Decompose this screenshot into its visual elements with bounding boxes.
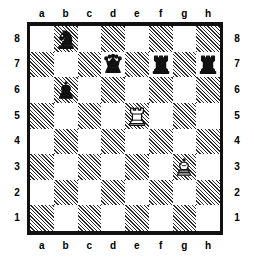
rank-label-7-left: 7 <box>11 58 23 70</box>
square-b7[interactable] <box>54 52 78 78</box>
square-a6[interactable] <box>30 77 54 103</box>
square-a1[interactable] <box>30 205 54 231</box>
square-g8[interactable] <box>173 26 197 52</box>
rank-label-6-left: 6 <box>11 84 23 96</box>
square-g4[interactable] <box>173 129 197 155</box>
square-b3[interactable] <box>54 154 78 180</box>
chess-diagram: abcdefgh abcdefgh 87654321 87654321 <box>0 0 254 268</box>
square-f1[interactable] <box>149 205 173 231</box>
square-b1[interactable] <box>54 205 78 231</box>
square-d6[interactable] <box>101 77 125 103</box>
chess-board-frame <box>27 24 223 233</box>
rank-label-2-left: 2 <box>11 187 23 199</box>
square-d2[interactable] <box>101 180 125 206</box>
square-d3[interactable] <box>101 154 125 180</box>
square-c4[interactable] <box>78 129 102 155</box>
file-label-g-top: g <box>177 8 191 20</box>
square-e4[interactable] <box>125 129 149 155</box>
square-d4[interactable] <box>101 129 125 155</box>
square-b4[interactable] <box>54 129 78 155</box>
rank-label-1-right: 1 <box>231 212 243 224</box>
square-b5[interactable] <box>54 103 78 129</box>
board-frame-bottom <box>27 233 223 235</box>
file-label-b-bottom: b <box>59 240 73 252</box>
square-h8[interactable] <box>196 26 220 52</box>
square-f2[interactable] <box>149 180 173 206</box>
square-b6[interactable] <box>54 77 78 103</box>
file-label-c-top: c <box>82 8 96 20</box>
square-c1[interactable] <box>78 205 102 231</box>
file-label-c-bottom: c <box>82 240 96 252</box>
square-c2[interactable] <box>78 180 102 206</box>
square-c7[interactable] <box>78 52 102 78</box>
square-d7[interactable] <box>101 52 125 78</box>
square-a7[interactable] <box>30 52 54 78</box>
rank-label-7-right: 7 <box>231 58 243 70</box>
square-f6[interactable] <box>149 77 173 103</box>
square-a5[interactable] <box>30 103 54 129</box>
square-g5[interactable] <box>173 103 197 129</box>
square-b2[interactable] <box>54 180 78 206</box>
square-f8[interactable] <box>149 26 173 52</box>
square-h5[interactable] <box>196 103 220 129</box>
white-king-on-g3[interactable] <box>173 156 195 178</box>
square-f4[interactable] <box>149 129 173 155</box>
square-f3[interactable] <box>149 154 173 180</box>
file-label-d-bottom: d <box>106 240 120 252</box>
square-d1[interactable] <box>101 205 125 231</box>
square-e1[interactable] <box>125 205 149 231</box>
file-label-a-top: a <box>35 8 49 20</box>
square-h4[interactable] <box>196 129 220 155</box>
rank-label-8-left: 8 <box>11 33 23 45</box>
file-label-f-top: f <box>154 8 168 20</box>
square-e2[interactable] <box>125 180 149 206</box>
square-a3[interactable] <box>30 154 54 180</box>
square-e7[interactable] <box>125 52 149 78</box>
square-g2[interactable] <box>173 180 197 206</box>
rank-label-2-right: 2 <box>231 187 243 199</box>
square-g7[interactable] <box>173 52 197 78</box>
square-g1[interactable] <box>173 205 197 231</box>
square-c5[interactable] <box>78 103 102 129</box>
square-f7[interactable] <box>149 52 173 78</box>
square-a8[interactable] <box>30 26 54 52</box>
black-rook-on-f7[interactable] <box>150 53 172 75</box>
square-e5[interactable] <box>125 103 149 129</box>
black-knight-on-b8[interactable] <box>55 28 77 50</box>
rank-label-1-left: 1 <box>11 212 23 224</box>
file-label-a-bottom: a <box>35 240 49 252</box>
rank-label-5-left: 5 <box>11 110 23 122</box>
square-f5[interactable] <box>149 103 173 129</box>
rank-label-8-right: 8 <box>231 33 243 45</box>
square-g3[interactable] <box>173 154 197 180</box>
rank-label-6-right: 6 <box>231 84 243 96</box>
square-e6[interactable] <box>125 77 149 103</box>
square-h6[interactable] <box>196 77 220 103</box>
square-c3[interactable] <box>78 154 102 180</box>
white-rook-on-e5[interactable] <box>126 105 148 127</box>
black-queen-on-d7[interactable] <box>102 53 124 75</box>
square-g6[interactable] <box>173 77 197 103</box>
square-c6[interactable] <box>78 77 102 103</box>
black-king-on-b6[interactable] <box>55 79 77 101</box>
square-h7[interactable] <box>196 52 220 78</box>
square-h2[interactable] <box>196 180 220 206</box>
square-b8[interactable] <box>54 26 78 52</box>
square-d5[interactable] <box>101 103 125 129</box>
square-h1[interactable] <box>196 205 220 231</box>
file-label-b-top: b <box>59 8 73 20</box>
file-label-h-top: h <box>201 8 215 20</box>
chess-board[interactable] <box>30 26 220 231</box>
square-a4[interactable] <box>30 129 54 155</box>
square-e8[interactable] <box>125 26 149 52</box>
square-d8[interactable] <box>101 26 125 52</box>
square-h3[interactable] <box>196 154 220 180</box>
file-label-e-bottom: e <box>130 240 144 252</box>
file-label-g-bottom: g <box>177 240 191 252</box>
black-rook-on-h7[interactable] <box>197 53 219 75</box>
square-e3[interactable] <box>125 154 149 180</box>
square-a2[interactable] <box>30 180 54 206</box>
file-label-f-bottom: f <box>154 240 168 252</box>
square-c8[interactable] <box>78 26 102 52</box>
rank-label-3-left: 3 <box>11 161 23 173</box>
